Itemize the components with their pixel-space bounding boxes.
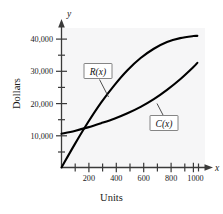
y-tick-label-30000: 30,000	[30, 67, 53, 76]
x-tick-label-1000: 1000	[187, 174, 203, 183]
x-tick-label-600: 600	[138, 174, 150, 183]
y-tick-label-40000: 40,000	[30, 35, 53, 44]
y-tick-label-10000: 10,000	[30, 132, 53, 141]
figure-container: y 40,000 30,000 20,000 10,000 x	[0, 0, 223, 214]
y-axis-arrow	[58, 19, 65, 28]
x-tick-label-200: 200	[83, 174, 95, 183]
x-tick-label-800: 800	[165, 174, 177, 183]
callout-cost-label: C(x)	[156, 119, 173, 130]
x-axis-title: Units	[0, 192, 223, 203]
x-axis-arrow	[205, 164, 214, 171]
callout-revenue-label: R(x)	[89, 67, 106, 78]
plot-background-panel	[62, 28, 205, 168]
x-tick-label-400: 400	[110, 174, 122, 183]
y-tick-label-20000: 20,000	[30, 100, 53, 109]
y-axis-symbol: y	[66, 9, 72, 19]
y-axis-title: Dollars	[11, 64, 22, 124]
cost-revenue-chart: y 40,000 30,000 20,000 10,000 x	[0, 0, 223, 214]
x-axis-symbol: x	[214, 163, 220, 173]
